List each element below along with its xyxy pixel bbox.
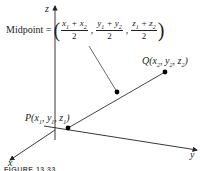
open-paren: ( — [53, 18, 60, 40]
point-p — [66, 126, 71, 131]
z-fraction: z1 + z2 2 — [131, 18, 157, 41]
point-midpoint — [115, 90, 120, 95]
y-axis-label: y — [190, 150, 194, 160]
figure-caption: FIGURE 13.33 — [4, 166, 56, 171]
midpoint-formula: Midpoint = ( x1 + x2 2 , y1 + y2 2 , z1 … — [6, 18, 164, 41]
y-fraction: y1 + y2 2 — [96, 18, 123, 41]
x-axis — [10, 130, 55, 160]
x-fraction: x1 + x2 2 — [61, 18, 88, 41]
z-axis-label: z — [45, 4, 49, 14]
segment-pq — [68, 72, 165, 128]
close-paren: ) — [158, 18, 165, 40]
point-q-label: Q(x2, y2, z2) — [142, 56, 188, 68]
midpoint-word: Midpoint = — [6, 24, 51, 35]
point-q — [163, 70, 168, 75]
point-p-label: P(x1, y1, z1) — [25, 113, 70, 125]
midpoint-pointer — [89, 46, 117, 92]
